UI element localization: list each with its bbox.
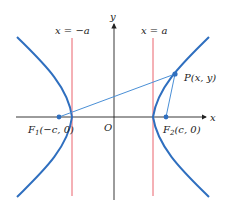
point-F2 — [164, 115, 169, 120]
point-F2-label: F2(c, 0) — [162, 124, 201, 137]
origin-label: O — [104, 122, 112, 133]
point-P-label: P(x, y) — [183, 72, 216, 83]
hyperbola-diagram: y x O x = −a x = a P(x, y) F1(−c, 0) F2(… — [0, 0, 228, 221]
segment-F1-P — [59, 74, 175, 117]
x-axis-label: x — [210, 112, 216, 123]
segment-F2-P — [166, 74, 175, 117]
line-x-neg-a-label: x = −a — [55, 25, 90, 36]
y-axis-label: y — [109, 11, 116, 22]
point-F1 — [57, 115, 62, 120]
point-P — [172, 71, 177, 76]
line-x-a-label: x = a — [141, 25, 167, 36]
